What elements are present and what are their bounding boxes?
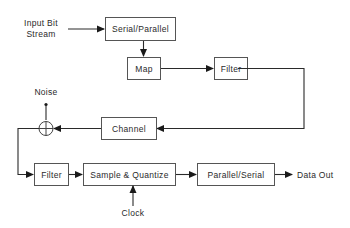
- input-bit-stream-label-line1: Input Bit: [24, 18, 58, 28]
- block-channel-label: Channel: [112, 124, 146, 134]
- block-parallel-serial: Parallel/Serial: [198, 164, 275, 186]
- noise-label: Noise: [34, 87, 57, 97]
- input-bit-stream-label-line2: Stream: [26, 29, 55, 39]
- block-map: Map: [128, 58, 161, 80]
- summing-junction: [39, 122, 53, 136]
- data-out-label: Data Out: [297, 170, 334, 180]
- block-sample-quantize: Sample & Quantize: [84, 164, 176, 186]
- block-parallel-serial-label: Parallel/Serial: [208, 170, 265, 180]
- block-filter-rx-label: Filter: [41, 170, 62, 180]
- block-diagram: Input Bit Stream Serial/Parallel Map Fil…: [0, 0, 350, 228]
- block-channel: Channel: [102, 118, 157, 140]
- block-map-label: Map: [135, 64, 152, 74]
- clock-label: Clock: [122, 208, 145, 218]
- block-serial-parallel: Serial/Parallel: [106, 18, 176, 41]
- block-filter-rx: Filter: [35, 164, 69, 186]
- block-serial-parallel-label: Serial/Parallel: [112, 24, 169, 34]
- block-sample-quantize-label: Sample & Quantize: [90, 170, 168, 180]
